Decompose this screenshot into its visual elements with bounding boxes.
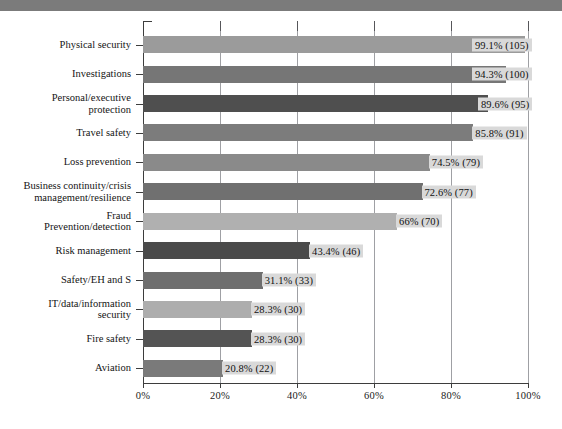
x-tick-label: 60% xyxy=(364,390,384,401)
x-tick-top xyxy=(220,21,221,31)
bar-value-label: 28.3% (30) xyxy=(251,332,305,345)
y-axis-label: Fraud Prevention/detection xyxy=(3,210,131,233)
y-tick xyxy=(136,251,143,252)
bar[interactable] xyxy=(143,95,488,112)
bar[interactable] xyxy=(143,213,397,230)
y-tick xyxy=(136,162,143,163)
bar-row: 85.8% (91) xyxy=(143,124,528,141)
bar[interactable] xyxy=(143,66,506,83)
bar-value-label: 43.4% (46) xyxy=(309,244,363,257)
bar-row: 99.1% (105) xyxy=(143,36,528,53)
y-tick xyxy=(136,339,143,340)
x-tick-top xyxy=(374,21,375,31)
bar-value-label: 74.5% (79) xyxy=(429,156,483,169)
bar-value-label: 31.1% (33) xyxy=(262,274,316,287)
bar-row: 94.3% (100) xyxy=(143,66,528,83)
x-tick xyxy=(451,383,452,388)
bar-row: 31.1% (33) xyxy=(143,272,528,289)
bar[interactable] xyxy=(143,272,263,289)
y-tick xyxy=(136,133,143,134)
plot-area: 0%20%40%60%80%100%99.1% (105)Physical se… xyxy=(143,30,528,383)
y-axis-label: Fire safety xyxy=(3,333,131,345)
bar-value-label: 28.3% (30) xyxy=(251,303,305,316)
bar-row: 20.8% (22) xyxy=(143,360,528,377)
x-tick xyxy=(297,383,298,388)
y-tick xyxy=(136,192,143,193)
x-tick-top xyxy=(451,21,452,31)
bar-row: 89.6% (95) xyxy=(143,95,528,112)
bar-value-label: 72.6% (77) xyxy=(422,185,476,198)
bar[interactable] xyxy=(143,183,423,200)
x-tick xyxy=(220,383,221,388)
y-axis-label: Aviation xyxy=(3,362,131,374)
x-tick xyxy=(143,383,144,388)
y-axis-label: Business continuity/crisis management/re… xyxy=(3,180,131,203)
y-axis-label: Safety/EH and S xyxy=(3,274,131,286)
y-axis-label: Risk management xyxy=(3,245,131,257)
bar-value-label: 20.8% (22) xyxy=(222,362,276,375)
x-tick-label: 80% xyxy=(441,390,461,401)
y-tick xyxy=(136,309,143,310)
y-axis-label: IT/data/information security xyxy=(3,298,131,321)
y-tick xyxy=(136,104,143,105)
x-tick-label: 0% xyxy=(136,390,150,401)
x-tick-top xyxy=(297,21,298,31)
y-axis-label: Physical security xyxy=(3,39,131,51)
y-tick xyxy=(136,368,143,369)
gridline xyxy=(528,30,529,383)
y-axis-label: Travel safety xyxy=(3,127,131,139)
bar-row: 66% (70) xyxy=(143,213,528,230)
x-tick-label: 100% xyxy=(515,390,540,401)
bar[interactable] xyxy=(143,360,223,377)
y-axis-label: Investigations xyxy=(3,68,131,80)
y-tick xyxy=(136,221,143,222)
y-tick xyxy=(136,280,143,281)
x-tick-top xyxy=(528,21,529,31)
bar[interactable] xyxy=(143,330,252,347)
x-tick xyxy=(374,383,375,388)
bar-value-label: 85.8% (91) xyxy=(472,126,526,139)
bar-chart: 0%20%40%60%80%100%99.1% (105)Physical se… xyxy=(0,11,562,429)
x-tick-label: 40% xyxy=(287,390,307,401)
bar[interactable] xyxy=(143,242,310,259)
bar[interactable] xyxy=(143,36,525,53)
y-tick xyxy=(136,45,143,46)
bar-row: 72.6% (77) xyxy=(143,183,528,200)
bar-value-label: 99.1% (105) xyxy=(472,38,532,51)
top-banner-bar xyxy=(0,0,562,11)
bar-row: 43.4% (46) xyxy=(143,242,528,259)
bar[interactable] xyxy=(143,301,252,318)
x-tick xyxy=(528,383,529,388)
bar-value-label: 89.6% (95) xyxy=(478,97,532,110)
bar-row: 28.3% (30) xyxy=(143,301,528,318)
y-tick xyxy=(136,74,143,75)
bar-value-label: 94.3% (100) xyxy=(472,68,532,81)
bar-row: 28.3% (30) xyxy=(143,330,528,347)
x-tick-label: 20% xyxy=(210,390,230,401)
bar[interactable] xyxy=(143,124,473,141)
y-axis-label: Loss prevention xyxy=(3,156,131,168)
bar[interactable] xyxy=(143,154,430,171)
bar-value-label: 66% (70) xyxy=(396,215,442,228)
x-axis-line xyxy=(143,383,528,384)
bar-row: 74.5% (79) xyxy=(143,154,528,171)
axis-top-corner xyxy=(143,21,152,22)
axis-left-stub xyxy=(143,21,144,33)
y-axis-label: Personal/executive protection xyxy=(3,92,131,115)
